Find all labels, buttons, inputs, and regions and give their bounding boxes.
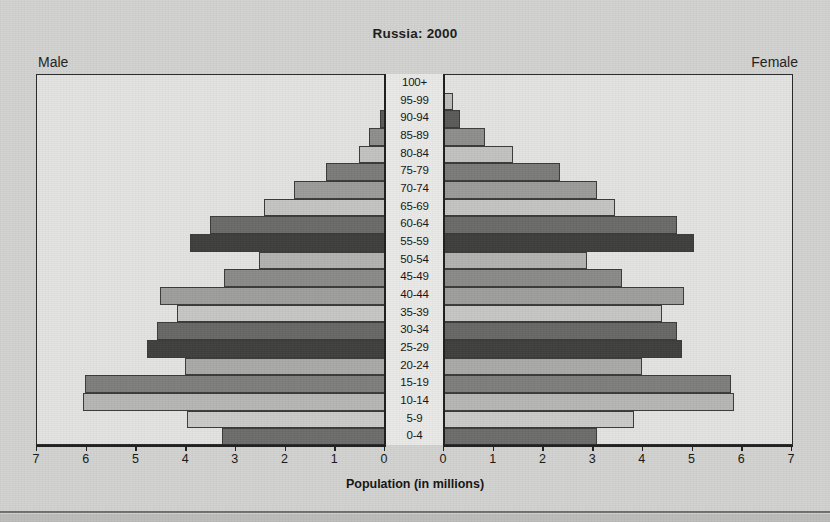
- female-bar-30-34: [443, 322, 792, 340]
- age-group-label: 0-4: [386, 427, 443, 445]
- male-bar-80-84: [37, 146, 386, 164]
- male-x-tick-label: 3: [225, 452, 245, 466]
- male-x-tick-label: 1: [324, 452, 344, 466]
- male-x-tick-label: 5: [125, 452, 145, 466]
- female-bar-fill: [443, 199, 615, 217]
- male-x-tick: [235, 445, 236, 451]
- male-bar-fill: [359, 146, 386, 164]
- female-bar-fill: [443, 340, 682, 358]
- x-axis-title: Population (in millions): [0, 477, 830, 491]
- male-bar-fill: [185, 358, 386, 376]
- male-bar-45-49: [37, 269, 386, 287]
- female-bar-90-94: [443, 110, 792, 128]
- age-group-label: 50-54: [386, 251, 443, 269]
- female-bar-fill: [443, 358, 642, 376]
- age-group-label: 75-79: [386, 162, 443, 180]
- chart-title: Russia: 2000: [0, 26, 830, 41]
- female-bar-5-9: [443, 411, 792, 429]
- male-bar-fill: [326, 163, 386, 181]
- female-zero-axis: [443, 74, 445, 445]
- male-bar-fill: [294, 181, 386, 199]
- age-group-label: 90-94: [386, 109, 443, 127]
- male-x-tick-label: 6: [76, 452, 96, 466]
- male-x-tick: [285, 445, 286, 451]
- female-x-tick: [443, 445, 444, 451]
- male-x-tick: [334, 445, 335, 451]
- male-bar-fill: [222, 428, 386, 445]
- female-bar-45-49: [443, 269, 792, 287]
- female-bar-fill: [443, 393, 734, 411]
- male-bar-90-94: [37, 110, 386, 128]
- female-bar-15-19: [443, 375, 792, 393]
- female-bar-75-79: [443, 163, 792, 181]
- female-x-tick: [542, 445, 543, 451]
- male-x-tick: [384, 445, 385, 451]
- female-bar-65-69: [443, 199, 792, 217]
- age-group-label: 70-74: [386, 180, 443, 198]
- female-bar-60-64: [443, 216, 792, 234]
- female-bar-100+: [443, 75, 792, 93]
- male-bar-fill: [157, 322, 386, 340]
- male-bar-5-9: [37, 411, 386, 429]
- male-bar-fill: [190, 234, 386, 252]
- female-axis-label: Female: [751, 54, 798, 70]
- female-x-tick: [791, 445, 792, 451]
- male-bar-40-44: [37, 287, 386, 305]
- male-x-tick-label: 2: [275, 452, 295, 466]
- female-bar-fill: [443, 234, 694, 252]
- page-bottom-rule: [0, 511, 830, 513]
- male-bar-fill: [160, 287, 386, 305]
- female-bar-55-59: [443, 234, 792, 252]
- female-x-tick-label: 2: [532, 452, 552, 466]
- female-x-tick-label: 7: [781, 452, 801, 466]
- female-x-tick: [692, 445, 693, 451]
- age-group-label: 35-39: [386, 304, 443, 322]
- female-bar-fill: [443, 287, 684, 305]
- female-bar-fill: [443, 428, 597, 445]
- age-group-label: 15-19: [386, 374, 443, 392]
- female-x-tick-label: 3: [582, 452, 602, 466]
- male-bar-fill: [224, 269, 386, 287]
- age-group-label: 100+: [386, 74, 443, 92]
- male-bar-15-19: [37, 375, 386, 393]
- female-x-tick-label: 0: [433, 452, 453, 466]
- male-bar-60-64: [37, 216, 386, 234]
- female-bar-80-84: [443, 146, 792, 164]
- female-x-tick-label: 4: [632, 452, 652, 466]
- age-group-label: 55-59: [386, 233, 443, 251]
- female-bar-fill: [443, 163, 560, 181]
- female-bar-25-29: [443, 340, 792, 358]
- male-bar-70-74: [37, 181, 386, 199]
- male-bar-fill: [259, 252, 386, 270]
- age-group-label: 30-34: [386, 321, 443, 339]
- female-bar-fill: [443, 322, 677, 340]
- age-group-label: 60-64: [386, 215, 443, 233]
- female-bar-fill: [443, 305, 662, 323]
- male-bar-fill: [264, 199, 386, 217]
- female-bar-fill: [443, 375, 731, 393]
- male-bar-50-54: [37, 252, 386, 270]
- male-bar-fill: [147, 340, 386, 358]
- male-bar-fill: [210, 216, 386, 234]
- female-x-tick-label: 6: [731, 452, 751, 466]
- male-bar-fill: [85, 375, 386, 393]
- male-bar-20-24: [37, 358, 386, 376]
- female-bar-fill: [443, 128, 485, 146]
- female-x-tick-label: 1: [483, 452, 503, 466]
- male-x-tick-label: 0: [374, 452, 394, 466]
- female-bar-fill: [443, 146, 513, 164]
- female-bar-10-14: [443, 393, 792, 411]
- female-bar-35-39: [443, 305, 792, 323]
- female-x-tick: [741, 445, 742, 451]
- male-x-tick-label: 4: [175, 452, 195, 466]
- male-bar-55-59: [37, 234, 386, 252]
- female-bar-fill: [443, 252, 587, 270]
- age-group-label: 45-49: [386, 268, 443, 286]
- male-bar-30-34: [37, 322, 386, 340]
- male-bar-fill: [187, 411, 386, 429]
- male-bar-fill: [83, 393, 386, 411]
- male-bar-65-69: [37, 199, 386, 217]
- female-x-tick: [592, 445, 593, 451]
- male-bar-35-39: [37, 305, 386, 323]
- male-bar-75-79: [37, 163, 386, 181]
